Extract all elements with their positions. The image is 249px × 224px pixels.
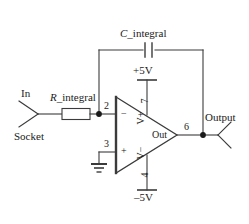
output-socket-symbol: [218, 122, 231, 148]
output-label: Output: [205, 112, 236, 123]
capacitor-symbol-suffix: _integral: [127, 27, 166, 39]
resistor-symbol-suffix: _integral: [57, 91, 96, 103]
vplus-label: V+: [136, 112, 146, 125]
pin-number-6: 6: [184, 122, 189, 132]
input-socket-symbol: [19, 101, 38, 127]
vminus-label: V−: [136, 147, 146, 160]
negative-supply-label: –5V: [134, 192, 153, 203]
junction-dot-node6: [200, 132, 206, 138]
pin-number-2: 2: [104, 101, 109, 111]
inverting-input-sign: −: [121, 109, 127, 119]
positive-supply-label: +5V: [133, 65, 153, 76]
resistor-symbol-prefix: R: [50, 91, 57, 103]
capacitor-plates: [145, 43, 152, 57]
out-label: Out: [152, 130, 167, 140]
resistor-body: [62, 109, 90, 120]
pin-number-4: 4: [140, 173, 150, 178]
circuit-diagram: In Socket R_integral C_integral +5V –5V …: [0, 0, 249, 224]
ground-symbol: [91, 164, 107, 172]
pin-number-7: 7: [140, 99, 150, 104]
junction-dot-node2: [96, 111, 102, 117]
socket-label: Socket: [14, 131, 44, 142]
capacitor-label: C_integral: [120, 28, 166, 39]
pin-number-3: 3: [104, 139, 109, 149]
noninverting-input-sign: +: [121, 146, 127, 156]
resistor-label: R_integral: [50, 92, 96, 103]
input-label: In: [21, 88, 30, 99]
